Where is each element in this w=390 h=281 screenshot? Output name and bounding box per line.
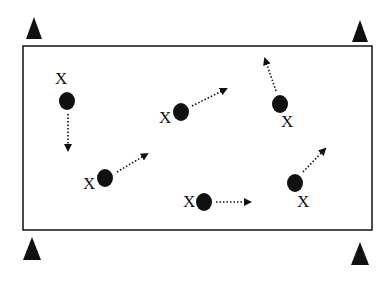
movement-arrow-icon: [265, 59, 276, 91]
cone-bottom-left-icon: [23, 237, 41, 260]
player-3: X: [265, 59, 293, 131]
cone-bottom-right-icon: [351, 242, 369, 265]
ball-icon: [97, 169, 113, 187]
ball-icon: [196, 193, 212, 211]
cone-top-left-icon: [26, 17, 42, 39]
player-marker-label: X: [297, 192, 309, 211]
players: XXXXXX: [55, 59, 325, 211]
player-4: X: [83, 154, 147, 193]
player-1: X: [55, 69, 75, 150]
player-6: X: [287, 149, 325, 211]
player-marker-label: X: [55, 69, 67, 88]
movement-arrow-icon: [303, 149, 325, 172]
player-marker-label: X: [83, 174, 95, 193]
cone-top-right-icon: [352, 20, 368, 42]
movement-arrow-icon: [192, 89, 226, 106]
ball-icon: [173, 103, 189, 121]
player-marker-label: X: [159, 108, 171, 127]
drill-diagram: XXXXXX: [0, 0, 390, 281]
player-marker-label: X: [281, 112, 293, 131]
ball-icon: [272, 95, 288, 113]
player-2: X: [159, 89, 226, 127]
ball-icon: [59, 92, 75, 110]
player-marker-label: X: [183, 192, 195, 211]
player-5: X: [183, 192, 250, 211]
cones: [23, 17, 369, 265]
ball-icon: [287, 174, 303, 192]
movement-arrow-icon: [117, 154, 147, 172]
